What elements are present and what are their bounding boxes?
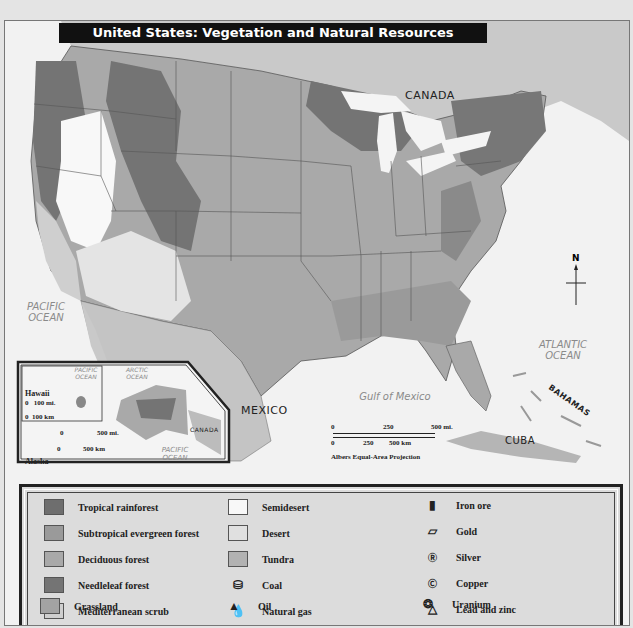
legend-label: Coal xyxy=(262,580,282,591)
alaska-label: Alaska xyxy=(25,457,49,466)
legend-item-desert: Desert xyxy=(228,525,290,541)
legend-item-copper: ⒸCopper xyxy=(422,575,488,591)
label-gulf-of-mexico: Gulf of Mexico xyxy=(355,391,435,402)
hawaii-scale-mi: 0 100 mi. xyxy=(25,399,56,407)
map-frame: United States: Vegetation and Natural Re… xyxy=(4,20,630,626)
scale-km-0: 0 xyxy=(331,439,335,447)
legend-item-gold: ▱Gold xyxy=(422,523,477,539)
legend-label: Deciduous forest xyxy=(78,554,149,565)
legend-item-lead-zinc: △Lead and zinc xyxy=(422,601,516,617)
alaska-scale-km-0: 0 xyxy=(57,445,61,453)
legend-label: Desert xyxy=(262,528,290,539)
legend-label: Copper xyxy=(456,578,488,589)
alaska-scale-mi-1: 500 mi. xyxy=(97,429,119,437)
legend-label: Gold xyxy=(456,526,477,537)
scale-mi-250: 250 xyxy=(383,423,394,431)
legend-item-mediterranean-scrub: Mediterranean scrub xyxy=(44,603,169,619)
legend-label: Tundra xyxy=(262,554,294,565)
swatch xyxy=(44,577,64,593)
label-canada: CANADA xyxy=(405,89,455,102)
copper-icon: Ⓒ xyxy=(422,575,442,591)
swatch xyxy=(44,603,64,619)
label-mexico: MEXICO xyxy=(241,404,288,417)
label-atlantic-ocean: ATLANTIC OCEAN xyxy=(533,339,593,361)
lead-zinc-icon: △ xyxy=(422,601,442,617)
legend-label: Natural gas xyxy=(262,606,312,617)
label-hawaii-pacific: PACIFIC OCEAN xyxy=(71,366,101,380)
alaska-scale-km-1: 500 km xyxy=(83,445,105,453)
swatch xyxy=(44,551,64,567)
swatch xyxy=(44,525,64,541)
legend-label: Needleleaf forest xyxy=(78,580,149,591)
legend-item-subtropical-evergreen: Subtropical evergreen forest xyxy=(44,525,199,541)
legend-item-deciduous-forest: Deciduous forest xyxy=(44,551,149,567)
hawaii-scale-km: 0 100 km xyxy=(25,413,54,421)
swatch xyxy=(228,551,248,567)
label-arctic-ocean: ARCTIC OCEAN xyxy=(117,366,157,380)
coal-icon: ⛁ xyxy=(228,577,248,593)
legend-item-iron-ore: ▮Iron ore xyxy=(422,497,491,513)
legend: Tropical rainforest Subtropical evergree… xyxy=(19,484,623,626)
scale-km-500: 500 km xyxy=(389,439,411,447)
legend-label: Tropical rainforest xyxy=(78,502,158,513)
legend-item-needleleaf-forest: Needleleaf forest xyxy=(44,577,149,593)
legend-label: Silver xyxy=(456,552,481,563)
label-alaska-pacific: PACIFIC OCEAN xyxy=(155,446,195,462)
swatch xyxy=(228,525,248,541)
scale-km-250: 250 xyxy=(363,439,374,447)
iron-ore-icon: ▮ xyxy=(422,497,442,513)
hawaii-label: Hawaii xyxy=(25,389,49,398)
compass-icon xyxy=(563,253,593,305)
gold-icon: ▱ xyxy=(422,523,442,539)
legend-item-silver: ⓇSilver xyxy=(422,549,481,565)
label-inset-canada: CANADA xyxy=(190,426,219,433)
legend-item-natural-gas: 💧Natural gas xyxy=(228,603,312,619)
label-pacific-ocean: PACIFIC OCEAN xyxy=(21,301,71,323)
legend-label: Mediterranean scrub xyxy=(78,606,169,617)
legend-label: Lead and zinc xyxy=(456,604,516,615)
swatch xyxy=(228,499,248,515)
swatch xyxy=(44,499,64,515)
legend-item-tundra: Tundra xyxy=(228,551,294,567)
scale-mi-500: 500 mi. xyxy=(431,423,453,431)
legend-item-tropical-rainforest: Tropical rainforest xyxy=(44,499,158,515)
natural-gas-icon: 💧 xyxy=(228,603,248,619)
legend-item-coal: ⛁Coal xyxy=(228,577,282,593)
legend-label: Semidesert xyxy=(262,502,309,513)
projection-label: Albers Equal-Area Projection xyxy=(331,453,420,461)
alaska-scale-mi-0: 0 xyxy=(60,429,64,437)
north-arrow: N xyxy=(563,253,593,305)
legend-label: Iron ore xyxy=(456,500,491,511)
silver-icon: Ⓡ xyxy=(422,549,442,565)
map-title: United States: Vegetation and Natural Re… xyxy=(59,23,487,43)
legend-item-semidesert: Semidesert xyxy=(228,499,309,515)
legend-label: Subtropical evergreen forest xyxy=(78,528,199,539)
scale-mi-0: 0 xyxy=(331,423,335,431)
label-cuba: CUBA xyxy=(505,435,535,446)
